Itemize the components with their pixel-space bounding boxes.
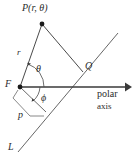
label-point-p: P(r, θ)	[22, 3, 47, 13]
label-segment-r: r	[17, 48, 21, 57]
label-polar-axis-line2: axis	[97, 102, 112, 111]
point-marker-p	[40, 22, 45, 27]
label-polar-axis-line1: polar	[97, 89, 118, 99]
label-angle-phi: ϕ	[41, 93, 46, 103]
label-angle-theta: θ	[36, 64, 41, 74]
angle-arc-phi	[33, 87, 40, 101]
label-distance-p: p	[18, 110, 23, 120]
label-point-q: Q	[85, 61, 92, 71]
polar-axis-arrowhead	[125, 83, 132, 92]
label-line-l: L	[8, 142, 14, 152]
segment-r-f-to-p	[20, 24, 42, 87]
diagram-canvas	[0, 0, 134, 160]
segment-p-to-q	[42, 24, 83, 72]
polar-coordinates-diagram: P(r, θ) r θ F ϕ p Q L polar axis	[0, 0, 134, 160]
point-marker-f	[18, 85, 23, 90]
label-point-f: F	[5, 79, 11, 89]
